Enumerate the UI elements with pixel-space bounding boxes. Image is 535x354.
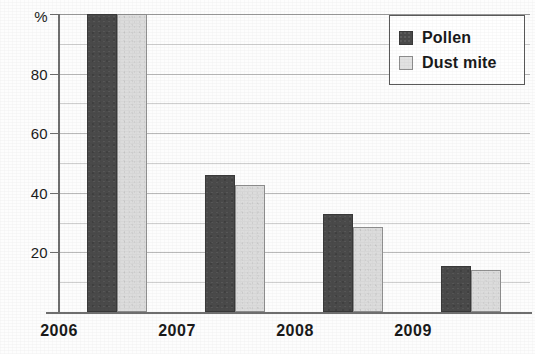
y-tick-mark-20 [50,252,59,253]
bar-dust-mite-2007[interactable] [235,185,265,312]
x-tick-label-2007: 2007 [117,322,237,340]
x-tick-label-2006: 2006 [0,322,119,340]
bar-pollen-2009[interactable] [441,266,471,312]
y-tick-label-60: 60 [4,125,48,142]
y-tick-mark-100 [50,14,59,15]
x-tick-label-2008: 2008 [235,322,355,340]
legend-label-dust-mite: Dust mite [422,54,497,72]
y-axis-labels: % 80 60 40 20 [0,0,48,354]
legend-item-dust-mite[interactable]: Dust mite [399,50,514,75]
y-axis-line [58,14,60,314]
bar-group-2006 [58,14,176,312]
y-axis-unit-label: % [4,8,48,25]
y-tick-mark-40 [50,193,59,194]
bar-dust-mite-2009[interactable] [471,270,501,312]
bar-pollen-2006[interactable] [87,14,117,312]
y-tick-label-20: 20 [4,244,48,261]
bar-chart: % 80 60 40 20 2006 2007 2008 2009 Pollen… [0,0,535,354]
y-tick-mark-60 [50,133,59,134]
y-tick-label-40: 40 [4,184,48,201]
x-axis-line [46,312,532,314]
legend-item-pollen[interactable]: Pollen [399,25,514,50]
bar-pollen-2007[interactable] [205,175,235,312]
legend-swatch-pollen-icon [399,31,413,45]
legend: Pollen Dust mite [389,15,525,85]
y-tick-label-80: 80 [4,65,48,82]
x-tick-label-2009: 2009 [353,322,473,340]
bar-pollen-2008[interactable] [323,214,353,312]
bar-dust-mite-2008[interactable] [353,227,383,312]
y-tick-mark-80 [50,74,59,75]
legend-label-pollen: Pollen [422,29,471,47]
bar-dust-mite-2006[interactable] [117,14,147,312]
legend-swatch-dust-mite-icon [399,56,413,70]
bar-group-2007 [176,14,294,312]
